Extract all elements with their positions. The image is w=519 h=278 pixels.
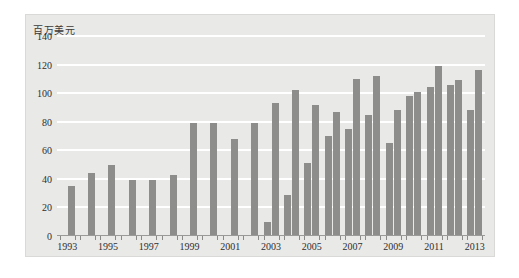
bar-group-1997	[141, 36, 156, 236]
bar-group-2007	[345, 36, 360, 236]
x-tick-mark-2010-0	[406, 236, 407, 240]
bar-exports-2003	[272, 103, 279, 236]
bar-exports-1994	[88, 173, 95, 236]
bar-exports-2005	[312, 105, 319, 236]
bar-imports-2007	[345, 129, 352, 236]
bar-group-1999	[182, 36, 197, 236]
bar-exports-2000	[210, 123, 217, 236]
bar-group-2013	[467, 36, 482, 236]
y-tick-label-120: 120	[37, 59, 52, 70]
x-tick-mark-2004-1	[299, 236, 300, 240]
bar-exports-2006	[333, 112, 340, 236]
x-tick-label-1993: 1993	[57, 241, 77, 252]
x-tick-mark-1999-1	[197, 236, 198, 240]
y-tick-label-40: 40	[42, 173, 52, 184]
bar-exports-1993	[68, 186, 75, 236]
bar-exports-1999	[190, 123, 197, 236]
x-tick-mark-2008-0	[365, 236, 366, 240]
x-tick-mark-1994-1	[95, 236, 96, 240]
x-tick-mark-2003-1	[279, 236, 280, 240]
y-tick-label-60: 60	[42, 145, 52, 156]
y-tick-label-100: 100	[37, 88, 52, 99]
x-tick-mark-1993-0	[60, 236, 61, 240]
chart-figure: 百万美元 进口 出口 020406080100120140 1993199519…	[0, 0, 519, 278]
bar-imports-2003	[264, 222, 271, 236]
x-tick-mark-2013-1	[482, 236, 483, 240]
bar-group-2009	[386, 36, 401, 236]
y-tick-label-80: 80	[42, 116, 52, 127]
x-tick-mark-2000-1	[217, 236, 218, 240]
x-tick-label-2011: 2011	[424, 241, 444, 252]
x-tick-mark-1993-1	[75, 236, 76, 240]
x-tick-mark-2007-1	[360, 236, 361, 240]
x-tick-mark-2004-0	[284, 236, 285, 240]
x-tick-mark-2001-1	[238, 236, 239, 240]
x-tick-label-1997: 1997	[139, 241, 159, 252]
bar-exports-1998	[170, 175, 177, 236]
bar-imports-2005	[304, 163, 311, 236]
bar-exports-2002	[251, 123, 258, 236]
bar-group-2012	[447, 36, 462, 236]
bar-imports-2009	[386, 143, 393, 236]
x-tick-mark-2002-0	[243, 236, 244, 240]
bar-exports-1997	[149, 180, 156, 236]
x-tick-mark-1997-0	[141, 236, 142, 240]
bar-exports-2008	[373, 76, 380, 236]
x-tick-mark-2011-0	[427, 236, 428, 240]
x-tick-label-1999: 1999	[179, 241, 199, 252]
x-tick-mark-2003-0	[264, 236, 265, 240]
bar-group-1996	[121, 36, 136, 236]
x-tick-mark-2006-0	[325, 236, 326, 240]
bar-group-1998	[162, 36, 177, 236]
bar-group-2002	[243, 36, 258, 236]
x-tick-label-2009: 2009	[383, 241, 403, 252]
bar-exports-2001	[231, 139, 238, 236]
x-tick-mark-1994-0	[80, 236, 81, 240]
x-tick-mark-1996-0	[121, 236, 122, 240]
y-tick-label-0: 0	[47, 231, 52, 242]
x-tick-mark-1998-0	[162, 236, 163, 240]
x-tick-mark-2010-1	[421, 236, 422, 240]
x-tick-mark-2012-0	[447, 236, 448, 240]
x-tick-mark-1998-1	[177, 236, 178, 240]
x-tick-label-1995: 1995	[98, 241, 118, 252]
bar-imports-2011	[427, 87, 434, 236]
bar-exports-2010	[414, 92, 421, 236]
bar-group-2000	[202, 36, 217, 236]
bar-group-2001	[223, 36, 238, 236]
bar-group-2010	[406, 36, 421, 236]
bar-imports-2012	[447, 85, 454, 236]
x-tick-mark-2007-0	[345, 236, 346, 240]
bar-group-1993	[60, 36, 75, 236]
bar-group-2004	[284, 36, 299, 236]
x-tick-mark-2009-1	[401, 236, 402, 240]
x-tick-mark-1995-0	[100, 236, 101, 240]
bar-group-2005	[304, 36, 319, 236]
bar-group-2003	[264, 36, 279, 236]
plot-area: 020406080100120140 199319951997199920012…	[57, 36, 485, 236]
bar-exports-2004	[292, 90, 299, 236]
bar-group-2011	[427, 36, 442, 236]
y-tick-label-20: 20	[42, 202, 52, 213]
bar-group-1994	[80, 36, 95, 236]
x-tick-mark-1997-1	[156, 236, 157, 240]
y-tick-label-140: 140	[37, 31, 52, 42]
x-tick-mark-2008-1	[380, 236, 381, 240]
bar-group-1995	[100, 36, 115, 236]
x-tick-mark-2009-0	[386, 236, 387, 240]
bar-exports-2012	[455, 80, 462, 236]
bar-imports-2013	[467, 110, 474, 236]
bar-imports-2004	[284, 195, 291, 236]
x-tick-label-2013: 2013	[465, 241, 485, 252]
x-tick-label-2007: 2007	[343, 241, 363, 252]
bar-group-2006	[325, 36, 340, 236]
x-tick-mark-2012-1	[462, 236, 463, 240]
bar-exports-1995	[108, 165, 115, 236]
bar-exports-1996	[129, 180, 136, 236]
bar-imports-2006	[325, 136, 332, 236]
x-tick-mark-1995-1	[115, 236, 116, 240]
x-tick-label-2001: 2001	[220, 241, 240, 252]
x-tick-mark-2006-1	[340, 236, 341, 240]
x-tick-mark-1996-1	[136, 236, 137, 240]
x-tick-mark-2001-0	[223, 236, 224, 240]
